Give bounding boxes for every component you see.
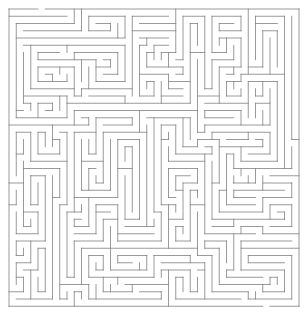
maze-figure [0, 0, 308, 319]
maze-canvas [0, 0, 308, 319]
